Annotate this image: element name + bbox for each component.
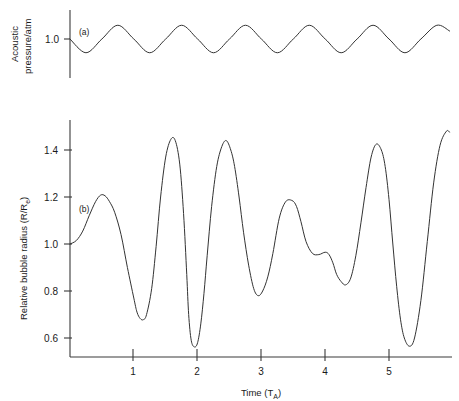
- figure-container: 1.0 (a) Acoustic pressure/atm 1.4: [0, 0, 459, 401]
- panel-b-tag: (b): [79, 204, 90, 214]
- panel-b-ytick-label-1.0: 1.0: [44, 239, 58, 250]
- xtick-label-5: 5: [386, 366, 392, 377]
- panel-a-ylabel-line2: pressure/atm: [22, 18, 33, 74]
- panel-a-tag: (a): [79, 27, 90, 37]
- xtick-label-4: 4: [322, 366, 328, 377]
- panel-a-ytick-label-1.0: 1.0: [45, 34, 59, 45]
- panel-a-ylabel-line1: Acoustic: [9, 26, 20, 62]
- panel-b-ytick-label-1.4: 1.4: [44, 145, 58, 156]
- panel-b-ylabel-group: Relative bubble radius (R/Re): [18, 197, 31, 320]
- x-axis-label: Time (TA): [241, 387, 281, 400]
- panel-b-ytick-label-1.2: 1.2: [44, 192, 58, 203]
- xtick-label-3: 3: [258, 366, 264, 377]
- panel-a-ylabel-group: Acoustic: [9, 26, 20, 62]
- bubble-dynamics-chart: 1.0 (a) Acoustic pressure/atm 1.4: [0, 0, 459, 401]
- acoustic-pressure-curve: [70, 25, 450, 53]
- panel-b-ylabel: Relative bubble radius (R/Re): [18, 197, 31, 320]
- panel-a-group: 1.0 (a) Acoustic pressure/atm: [9, 10, 450, 78]
- relative-bubble-radius-curve: [70, 130, 450, 347]
- panel-b-ytick-label-0.8: 0.8: [44, 286, 58, 297]
- panel-a-ylabel-group2: pressure/atm: [22, 18, 33, 74]
- xtick-label-2: 2: [194, 366, 200, 377]
- panel-b-group: 1.4 1.2 1.0 0.8 0.6 (b) 1 2 3 4 5 Relati…: [18, 120, 452, 400]
- xtick-label-1: 1: [130, 366, 136, 377]
- panel-b-ytick-label-0.6: 0.6: [44, 333, 58, 344]
- panel-b-xticks: [133, 349, 389, 361]
